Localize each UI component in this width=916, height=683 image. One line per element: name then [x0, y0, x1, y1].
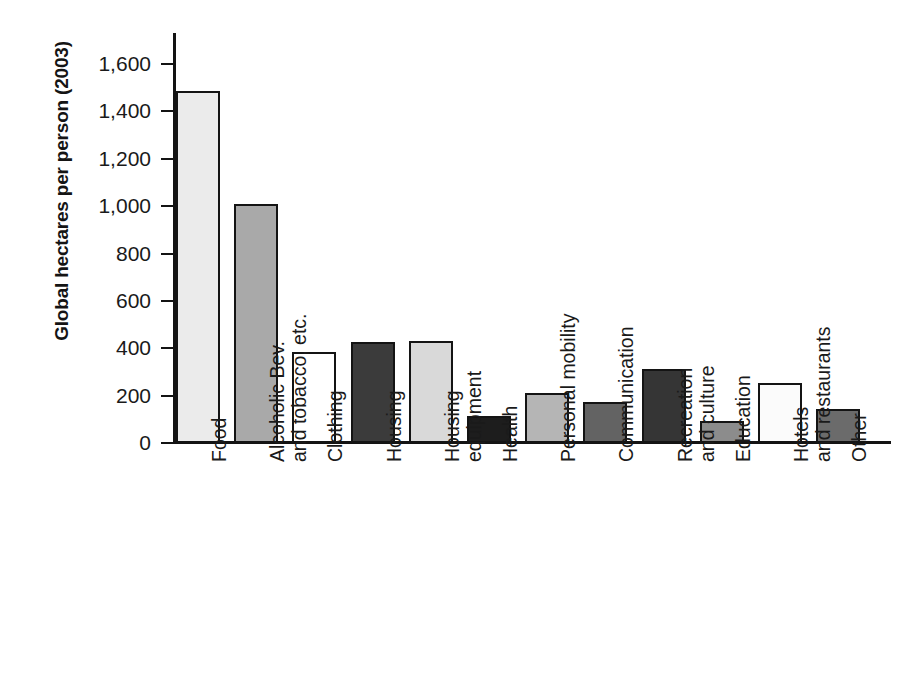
y-tick-mark: [161, 253, 174, 255]
x-axis-label-line: Other: [849, 413, 871, 462]
y-tick-label: 800: [55, 243, 151, 264]
plot-area: 1,6001,4001,2001,0008006004002000 FoodAl…: [0, 0, 916, 683]
x-axis-label: Alcoholic Bev.and tobacco, etc.: [267, 313, 311, 462]
y-tick-mark: [161, 110, 174, 112]
y-tick-label: 1,400: [55, 100, 151, 121]
x-axis-label: Housingequipment: [442, 371, 486, 462]
x-axis-label: Food: [209, 418, 231, 462]
y-tick-mark: [161, 63, 174, 65]
x-axis-label: Recreationand culture: [675, 366, 719, 462]
y-tick-label: 1,200: [55, 148, 151, 169]
x-axis-label-line: Personal mobility: [558, 314, 580, 462]
x-axis-label: Hotelsand restaurants: [791, 326, 835, 462]
x-axis-label-line: Hotels: [791, 326, 813, 462]
x-axis-label-line: Housing: [384, 390, 406, 462]
y-tick-label: 1,600: [55, 53, 151, 74]
x-axis-label-line: and culture: [696, 366, 718, 462]
y-tick-mark: [161, 300, 174, 302]
y-tick-mark: [161, 395, 174, 397]
y-tick-label: 0: [55, 432, 151, 453]
y-tick-mark: [161, 442, 174, 444]
x-axis-label: Clothing: [325, 390, 347, 462]
y-tick-mark: [161, 347, 174, 349]
x-axis-label: Other: [849, 413, 871, 462]
y-tick-label: 400: [55, 337, 151, 358]
x-axis-label-line: Food: [209, 418, 231, 462]
y-tick-mark: [161, 158, 174, 160]
x-axis-label-line: Communication: [616, 327, 638, 462]
x-axis-label: Education: [733, 375, 755, 462]
y-tick-label: 600: [55, 290, 151, 311]
x-axis-label-line: Education: [733, 375, 755, 462]
x-axis-label-line: Recreation: [675, 366, 697, 462]
x-axis-label-line: Alcoholic Bev.: [267, 313, 289, 462]
x-axis-label-line: and restaurants: [813, 326, 835, 462]
x-axis-label-line: and tobacco, etc.: [289, 313, 311, 462]
x-axis-label-line: Health: [500, 406, 522, 462]
x-axis-label: Housing: [384, 390, 406, 462]
x-axis-label-line: Housing: [442, 371, 464, 462]
y-tick-label: 1,000: [55, 195, 151, 216]
bar: [176, 91, 220, 443]
x-axis-label-line: Clothing: [325, 390, 347, 462]
bar-chart: Global hectares per person (2003) 1,6001…: [0, 0, 916, 683]
x-axis-label: Communication: [616, 327, 638, 462]
x-axis-label: Health: [500, 406, 522, 462]
y-tick-label: 200: [55, 385, 151, 406]
x-axis-label-line: equipment: [464, 371, 486, 462]
x-axis-label: Personal mobility: [558, 314, 580, 462]
y-tick-mark: [161, 205, 174, 207]
